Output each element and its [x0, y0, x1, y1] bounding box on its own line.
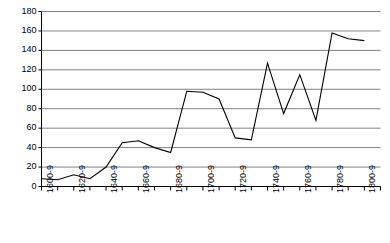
x-tick-label: 1720-9 [239, 164, 248, 192]
x-tick-label: 1660-9 [142, 164, 151, 192]
y-tick-label: 80 [11, 104, 37, 113]
y-tick-label: 20 [11, 162, 37, 171]
y-tick-label: 40 [11, 143, 37, 152]
axis-group [42, 12, 381, 187]
x-tick-label: 1640-9 [110, 164, 119, 192]
x-tick-label: 1780-9 [336, 164, 345, 192]
x-tick-label: 1600-9 [46, 164, 55, 192]
chart-canvas [0, 0, 390, 243]
y-tick-label: 0 [11, 182, 37, 191]
line-chart: 020406080100120140160180 1600-91620-9164… [0, 0, 390, 243]
x-tick-label: 1740-9 [272, 164, 281, 192]
data-series-line [42, 33, 365, 180]
y-tick-label: 160 [11, 26, 37, 35]
x-tick-label: 1620-9 [78, 164, 87, 192]
y-tick-label: 60 [11, 123, 37, 132]
y-tick-label: 140 [11, 45, 37, 54]
x-tick-label: 1680-9 [175, 164, 184, 192]
x-tick-label: 1800-9 [368, 164, 377, 192]
y-tick-label: 100 [11, 84, 37, 93]
gridline-group [42, 12, 381, 187]
y-tick-label: 180 [11, 7, 37, 16]
x-tick-label: 1700-9 [207, 164, 216, 192]
x-tick-label: 1760-9 [304, 164, 313, 192]
y-tick-label: 120 [11, 65, 37, 74]
